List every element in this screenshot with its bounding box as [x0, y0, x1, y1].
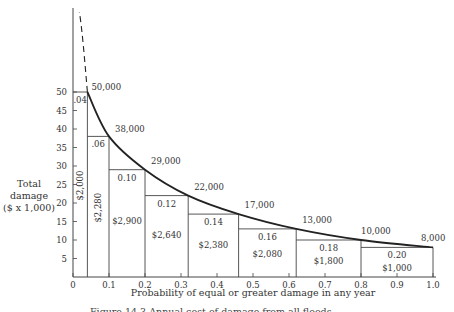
- bar-width-label: .06: [91, 139, 105, 149]
- y-tick-label: 40: [56, 124, 67, 134]
- point-value-label: 22,000: [194, 182, 224, 192]
- point-value-label: 8,000: [421, 233, 445, 243]
- y-tick-label: 15: [56, 217, 67, 227]
- bar-area-label: $1,800: [314, 256, 344, 266]
- bar-width-label: .04: [73, 95, 87, 105]
- y-tick-label: 5: [62, 254, 67, 264]
- y-tick-label: 45: [56, 106, 67, 116]
- point-value-label: 10,000: [361, 226, 391, 236]
- bar-area-label: $2,900: [112, 216, 142, 226]
- point-value-label: 13,000: [302, 215, 332, 225]
- x-axis-label: Probability of equal or greater damage i…: [73, 287, 433, 298]
- bar-width-label: 0.16: [258, 232, 277, 242]
- y-axis-label: Total damage ($ x 1,000): [0, 178, 58, 214]
- point-value-label: 38,000: [115, 124, 145, 134]
- y-tick-label: 30: [56, 161, 67, 171]
- bar-width-label: 0.18: [319, 243, 338, 253]
- bar-area-label: $2,380: [199, 240, 229, 250]
- point-value-label: 17,000: [245, 200, 275, 210]
- figure-caption: Figure 14.3 Annual cost of damage from a…: [90, 306, 390, 312]
- y-axis-label-line-3: ($ x 1,000): [0, 202, 58, 214]
- damage-curve-extrapolation: [79, 12, 87, 92]
- y-tick-label: 10: [56, 235, 67, 245]
- bar-area-label: $2,000: [75, 171, 85, 201]
- y-tick-label: 50: [56, 87, 67, 97]
- point-value-label: 50,000: [91, 82, 121, 92]
- bar-width-label: 0.20: [388, 250, 407, 260]
- y-tick-label: 35: [56, 143, 67, 153]
- damage-frequency-chart: 00.10.20.30.40.50.60.70.80.91.0510152025…: [0, 0, 454, 312]
- bar-area-label: $2,280: [93, 193, 103, 223]
- bar-width-label: 0.14: [204, 217, 223, 227]
- bar-area-label: $1,000: [382, 263, 412, 273]
- bar-width-label: 0.10: [118, 173, 137, 183]
- point-value-label: 29,000: [151, 156, 181, 166]
- bar-area-label: $2,640: [152, 230, 182, 240]
- y-axis-label-line-1: Total: [0, 178, 58, 190]
- data-labels: .04$2,000.06$2,2800.10$2,9000.12$2,6400.…: [73, 82, 445, 273]
- bar-area-label: $2,080: [253, 249, 283, 259]
- bar-width-label: 0.12: [157, 199, 176, 209]
- y-axis-label-line-2: damage: [0, 190, 58, 202]
